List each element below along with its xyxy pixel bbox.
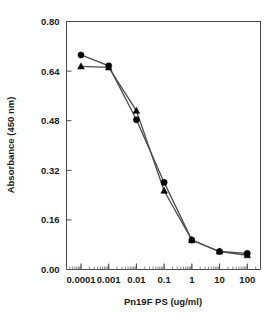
data-point-circle [133,117,139,123]
x-tick-label: 1 [189,274,195,285]
x-axis-title: Pn19F PS (ug/ml) [124,296,202,307]
data-point-circle [78,52,84,58]
y-tick-label: 0.48 [41,115,60,126]
absorbance-dose-response-chart: 0.000.160.320.480.640.80 0.00010.0010.01… [0,0,279,324]
x-tick-label: 0.0001 [66,274,96,285]
x-tick-label: 0.1 [158,274,172,285]
y-axis-title: Absorbance (450 nm) [5,97,16,194]
y-tick-label: 0.80 [41,16,60,27]
x-tick-label: 100 [239,274,255,285]
y-tick-label: 0.32 [41,165,60,176]
chart-figure: 0.000.160.320.480.640.80 0.00010.0010.01… [0,0,279,324]
x-tick-label: 10 [214,274,225,285]
x-tick-label: 0.001 [97,274,121,285]
y-tick-label: 0.16 [41,214,60,225]
data-point-circle [161,179,167,185]
y-tick-label: 0.64 [41,66,60,77]
y-tick-label: 0.00 [41,264,60,275]
x-tick-label: 0.01 [127,274,146,285]
